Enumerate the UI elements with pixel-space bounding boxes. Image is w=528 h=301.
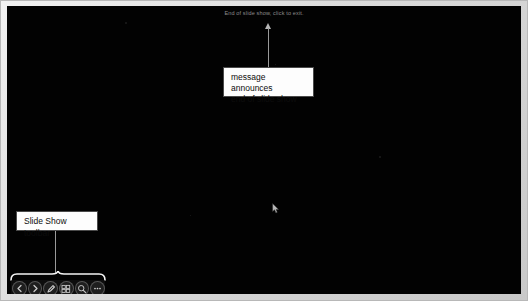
end-of-slideshow-message: End of slide show, click to exit.	[7, 10, 521, 16]
annotation-line-2: end of slide show	[231, 94, 307, 105]
ellipsis-icon	[92, 283, 103, 294]
slide-show-screenshot: End of slide show, click to exit. messag…	[0, 0, 528, 301]
previous-slide-button[interactable]	[12, 281, 27, 294]
slide-show-canvas[interactable]: End of slide show, click to exit. messag…	[7, 6, 521, 294]
slide-show-toolbar[interactable]	[11, 280, 105, 294]
noise-speck	[275, 64, 276, 65]
arrow-right-icon	[31, 284, 40, 293]
grid-icon	[61, 284, 71, 294]
toolbar-callout-connector-line	[55, 231, 56, 274]
annotation-callout-message: message announces end of slide show	[223, 67, 314, 97]
noise-speck	[190, 215, 191, 216]
callout-connector-line	[268, 28, 269, 68]
annotation-callout-toolbar: Slide Show toolbar	[16, 211, 98, 231]
more-options-button[interactable]	[90, 281, 105, 294]
next-slide-button[interactable]	[28, 281, 43, 294]
all-slides-button[interactable]	[59, 281, 74, 294]
magnifier-icon	[77, 284, 87, 294]
noise-speck	[379, 156, 381, 158]
pen-button[interactable]	[43, 281, 58, 294]
pen-icon	[46, 284, 56, 294]
arrow-left-icon	[15, 284, 24, 293]
noise-speck	[125, 22, 127, 24]
zoom-button[interactable]	[75, 281, 90, 294]
mouse-pointer-icon	[272, 203, 280, 214]
annotation-line-1: message announces	[231, 72, 307, 94]
